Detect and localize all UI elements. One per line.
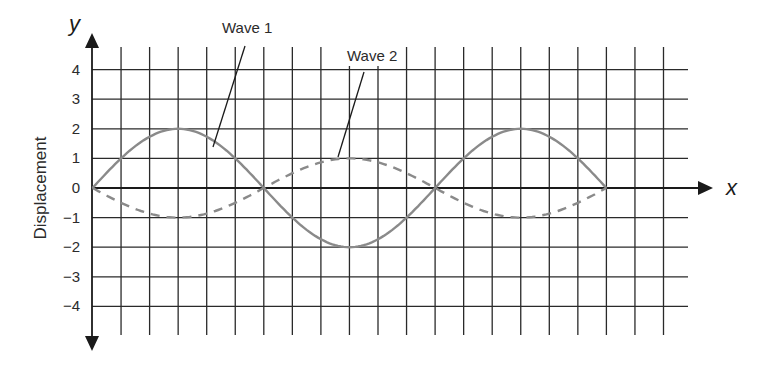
y-axis-label: Displacement [31,136,50,239]
y-tick-labels: 43210−1−2−3−4 [63,61,80,315]
y-axis-variable: y [67,11,82,36]
y-tick-label: −1 [63,209,80,226]
grid-lines [92,47,688,335]
wave-2-callout: Wave 2 [338,44,405,157]
wave-2-leader-line [338,72,364,157]
y-tick-label: 3 [72,90,80,107]
wave-displacement-chart: x y 43210−1−2−3−4 Displacement Wave 1 Wa… [0,0,768,372]
y-tick-label: 1 [72,149,80,166]
wave-1-label: Wave 1 [222,19,272,36]
x-axis: x [92,175,738,200]
y-tick-label: −4 [63,297,80,314]
wave-2-label: Wave 2 [347,47,397,64]
x-axis-variable: x [725,175,738,200]
y-tick-label: −2 [63,238,80,255]
y-axis-up-arrow-icon [85,33,99,48]
y-tick-label: 0 [72,179,80,196]
y-axis-down-arrow-icon [85,336,99,351]
wave-1-leader-line [213,46,245,147]
y-tick-label: −3 [63,268,80,285]
x-axis-arrow-icon [698,181,713,195]
y-tick-label: 2 [72,120,80,137]
y-tick-label: 4 [72,61,80,78]
